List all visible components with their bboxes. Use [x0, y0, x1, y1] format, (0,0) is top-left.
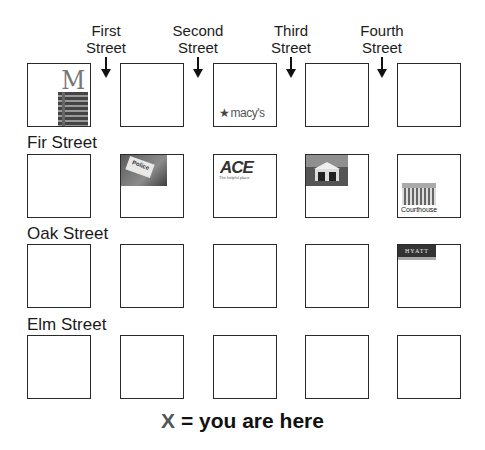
- block[interactable]: [213, 335, 277, 399]
- block-ace[interactable]: ACE The helpful place: [213, 154, 277, 218]
- block[interactable]: [27, 244, 91, 308]
- column-header-line2: Street: [337, 39, 427, 56]
- column-header-line2: Street: [153, 39, 243, 56]
- mcdonalds-arches: M: [61, 68, 82, 92]
- building-photo: [58, 92, 88, 126]
- church-photo: [306, 155, 348, 186]
- block-church[interactable]: [305, 154, 369, 218]
- block-police[interactable]: Police: [120, 154, 184, 218]
- courthouse-label: Courthouse: [401, 206, 437, 213]
- police-station-photo: Police: [121, 155, 167, 186]
- block[interactable]: [120, 63, 184, 127]
- column-header-line2: Street: [246, 39, 336, 56]
- block[interactable]: [397, 335, 461, 399]
- arrow-down-icon: [377, 57, 387, 79]
- block[interactable]: [120, 335, 184, 399]
- legend: X = you are here: [0, 409, 485, 433]
- ace-logo: ACE: [220, 160, 253, 176]
- star-icon: ★: [219, 106, 230, 120]
- column-header-fourth-street: Fourth Street: [337, 22, 427, 56]
- ace-tagline: The helpful place: [219, 175, 249, 180]
- arrow-down-icon: [101, 57, 111, 79]
- block[interactable]: [305, 335, 369, 399]
- block-mcdonalds[interactable]: M: [27, 63, 91, 127]
- column-header-line1: Third: [246, 22, 336, 39]
- legend-text: = you are here: [175, 409, 324, 432]
- block[interactable]: [120, 244, 184, 308]
- block-macys[interactable]: ★macy's: [213, 63, 277, 127]
- row-label-fir-street: Fir Street: [27, 134, 97, 152]
- block[interactable]: [305, 244, 369, 308]
- macys-label: macy's: [231, 106, 265, 120]
- column-header-line1: Second: [153, 22, 243, 39]
- column-header-first-street: First Street: [61, 22, 151, 56]
- block[interactable]: [213, 244, 277, 308]
- column-header-line2: Street: [61, 39, 151, 56]
- block[interactable]: [305, 63, 369, 127]
- block[interactable]: [27, 335, 91, 399]
- courthouse-photo: [402, 183, 436, 205]
- block-courthouse[interactable]: Courthouse: [397, 154, 461, 218]
- column-header-line1: First: [61, 22, 151, 39]
- block[interactable]: [27, 154, 91, 218]
- row-label-oak-street: Oak Street: [27, 225, 108, 243]
- column-header-third-street: Third Street: [246, 22, 336, 56]
- block-hyatt[interactable]: HYATT: [397, 244, 461, 308]
- you-are-here-symbol: X: [161, 409, 175, 432]
- hyatt-logo: HYATT: [398, 245, 436, 257]
- arrow-down-icon: [193, 57, 203, 79]
- arrow-down-icon: [286, 57, 296, 79]
- block[interactable]: [397, 63, 461, 127]
- mcdonalds-logo-icon: M: [58, 66, 88, 126]
- police-sign: Police: [125, 156, 154, 178]
- column-header-second-street: Second Street: [153, 22, 243, 56]
- macys-logo: ★macy's: [219, 106, 264, 120]
- column-header-line1: Fourth: [337, 22, 427, 39]
- row-label-elm-street: Elm Street: [27, 316, 106, 334]
